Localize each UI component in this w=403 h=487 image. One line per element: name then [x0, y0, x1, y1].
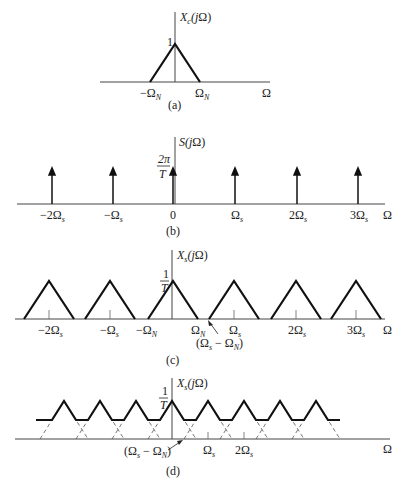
impulse-area-label: 2π T — [157, 152, 171, 181]
svg-text:2π: 2π — [158, 152, 171, 166]
caption-c: (c) — [166, 353, 179, 367]
tick-2omega-s: 2Ωs — [288, 323, 306, 339]
y-axis-label: Xc(jΩ) — [179, 10, 211, 26]
x-axis-label: Ω — [262, 86, 271, 100]
y-axis-label: Xs(jΩ) — [176, 248, 208, 264]
tick-neg-omega-n: −ΩN — [140, 86, 162, 102]
svg-text:1: 1 — [163, 267, 169, 281]
tick-neg-omega-s: −Ωs — [100, 323, 119, 339]
x-axis-label: Ω — [383, 208, 392, 222]
tick-omega-s: Ωs — [231, 208, 243, 224]
sampling-spectra-figure: Xc(jΩ) 1 −ΩN ΩN Ω (a) S(jΩ) 2π T −2Ωs −Ω… — [0, 0, 403, 487]
tick-3omega-s: 3Ωs — [350, 208, 368, 224]
x-axis-label: Ω — [383, 323, 392, 337]
svg-text:1: 1 — [162, 384, 168, 398]
y-axis-label: Xs(jΩ) — [176, 376, 208, 392]
tick-omega-s: Ωs — [203, 443, 215, 459]
annotation-arrow — [208, 320, 218, 334]
tick-neg-2omega-s: −2Ωs — [38, 323, 63, 339]
caption-a: (a) — [168, 98, 181, 112]
tick-neg-2omega-s: −2Ωs — [40, 208, 65, 224]
peak-label: 1 T — [159, 384, 168, 412]
panel-c: Xs(jΩ) 1 T −2Ωs −Ωs −ΩN ΩN Ωs 2Ωs 3Ωs Ω … — [15, 248, 392, 367]
panel-a: Xc(jΩ) 1 −ΩN ΩN Ω (a) — [100, 10, 271, 112]
impulse-train — [49, 168, 361, 204]
tick-neg-omega-s: −Ωs — [104, 208, 123, 224]
annotation-omega-s-minus-omega-n: (Ωs − ΩN) — [196, 336, 243, 352]
y-axis-label: S(jΩ) — [179, 135, 205, 149]
tick-3omega-s: 3Ωs — [347, 323, 365, 339]
annotation-omega-s-minus-omega-n: (Ωs − ΩN) — [124, 444, 171, 460]
peak-label: 1 — [167, 35, 173, 49]
tick-omega-n: ΩN — [195, 86, 210, 102]
tick-2omega-s: 2Ωs — [235, 443, 253, 459]
peak-label: 1 T — [160, 267, 169, 295]
svg-text:T: T — [159, 167, 167, 181]
tick-zero: 0 — [170, 208, 176, 222]
center-ticks — [208, 432, 244, 439]
caption-d: (d) — [166, 464, 180, 478]
aliased-spectrum — [36, 401, 340, 420]
caption-b: (b) — [166, 224, 180, 238]
x-axis-label: Ω — [383, 442, 392, 456]
panel-d: Xs(jΩ) 1 T (Ωs − ΩN) Ωs 2Ωs Ω (d) — [15, 376, 392, 478]
tick-2omega-s: 2Ωs — [289, 208, 307, 224]
center-ticks — [49, 310, 356, 319]
replica-triangles — [24, 281, 381, 319]
panel-b: S(jΩ) 2π T −2Ωs −Ωs 0 Ωs 2Ωs 3Ωs Ω (b) — [17, 135, 392, 238]
tick-neg-omega-n: −ΩN — [136, 323, 158, 339]
